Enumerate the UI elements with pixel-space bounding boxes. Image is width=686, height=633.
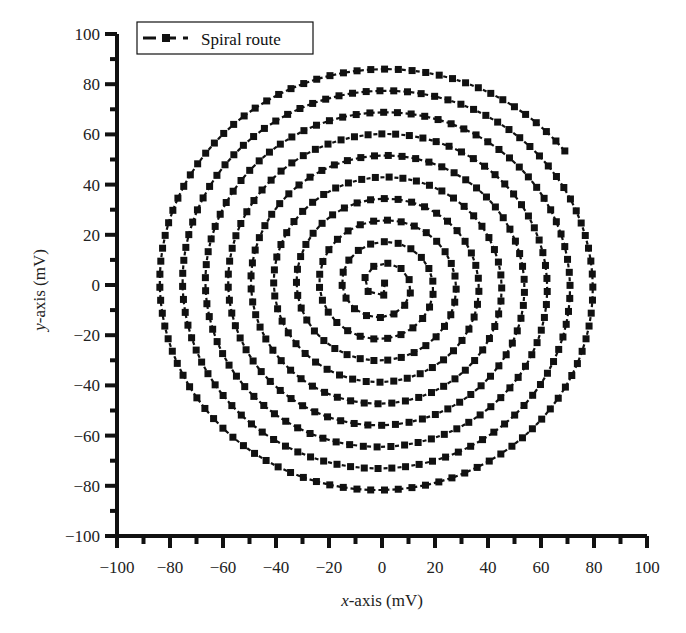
data-point-marker xyxy=(411,349,418,356)
data-point-marker xyxy=(525,212,532,219)
data-point-marker xyxy=(467,391,474,398)
data-point-marker xyxy=(477,411,484,418)
data-point-marker xyxy=(498,284,505,291)
data-point-marker xyxy=(351,420,358,427)
data-point-marker xyxy=(332,184,339,191)
data-point-marker xyxy=(521,276,528,283)
data-point-marker xyxy=(531,224,538,231)
data-point-marker xyxy=(472,262,479,269)
data-point-marker xyxy=(422,342,429,349)
data-point-marker xyxy=(194,160,201,167)
data-point-marker xyxy=(381,487,388,494)
data-point-marker xyxy=(345,257,352,264)
data-point-marker xyxy=(450,195,457,202)
data-point-marker xyxy=(212,223,219,230)
data-point-marker xyxy=(363,312,370,319)
data-point-marker xyxy=(438,187,445,194)
data-point-marker xyxy=(189,219,196,226)
data-point-marker xyxy=(516,250,523,257)
data-point-marker xyxy=(506,384,513,391)
data-point-marker xyxy=(433,210,440,217)
data-point-marker xyxy=(203,300,210,307)
data-point-marker xyxy=(478,382,485,389)
data-point-marker xyxy=(256,157,263,164)
data-point-marker xyxy=(312,359,319,366)
data-point-marker xyxy=(467,443,474,450)
data-point-marker xyxy=(165,335,172,342)
data-point-marker xyxy=(406,276,413,283)
data-point-marker xyxy=(300,152,307,159)
data-point-marker xyxy=(398,354,405,361)
data-point-marker xyxy=(266,149,273,156)
data-point-marker xyxy=(319,220,326,227)
data-point-marker xyxy=(276,200,283,207)
data-point-marker xyxy=(258,368,265,375)
spiral-series xyxy=(156,66,596,494)
data-point-marker xyxy=(461,203,468,210)
data-point-marker xyxy=(380,292,387,299)
data-point-marker xyxy=(284,111,291,118)
data-point-marker xyxy=(360,443,367,450)
data-point-marker xyxy=(230,121,237,128)
data-point-marker xyxy=(252,247,259,254)
data-point-marker xyxy=(288,133,295,140)
data-point-marker xyxy=(313,122,320,129)
data-point-marker xyxy=(583,335,590,342)
data-point-marker xyxy=(159,245,166,252)
data-point-marker xyxy=(213,172,220,179)
data-point-marker xyxy=(435,116,442,123)
data-point-marker xyxy=(298,305,305,312)
data-point-marker xyxy=(544,288,551,295)
data-point-marker xyxy=(451,375,458,382)
data-point-marker xyxy=(415,394,422,401)
data-point-marker xyxy=(285,190,292,197)
data-point-marker xyxy=(411,223,418,230)
data-point-marker xyxy=(587,258,594,265)
data-point-marker xyxy=(441,323,448,330)
data-point-marker xyxy=(528,351,535,358)
data-point-marker xyxy=(324,366,331,373)
data-point-marker xyxy=(157,258,164,265)
data-point-marker xyxy=(520,302,527,309)
data-point-marker xyxy=(290,218,297,225)
data-point-marker xyxy=(288,159,295,166)
data-point-marker xyxy=(320,337,327,344)
data-point-marker xyxy=(388,465,395,472)
data-point-marker xyxy=(226,362,233,369)
data-point-marker xyxy=(309,199,316,206)
data-point-marker xyxy=(471,357,478,364)
data-point-marker xyxy=(349,376,356,383)
data-point-marker xyxy=(419,415,426,422)
data-point-marker xyxy=(240,142,247,149)
data-point-marker xyxy=(419,135,426,142)
data-point-marker xyxy=(533,184,540,191)
x-tick-label: 80 xyxy=(586,558,603,577)
data-point-marker xyxy=(210,415,217,422)
data-point-marker xyxy=(367,196,374,203)
data-point-marker xyxy=(479,346,486,353)
data-point-marker xyxy=(278,168,285,175)
data-point-marker xyxy=(589,297,596,304)
data-point-marker xyxy=(357,154,364,161)
data-point-marker xyxy=(354,199,361,206)
data-point-marker xyxy=(397,331,404,338)
data-point-marker xyxy=(169,207,176,214)
data-point-marker xyxy=(324,413,331,420)
data-point-marker xyxy=(237,334,244,341)
data-point-marker xyxy=(486,335,493,342)
data-point-marker xyxy=(462,79,469,86)
data-point-marker xyxy=(521,402,528,409)
data-point-marker xyxy=(390,310,397,317)
data-point-marker xyxy=(421,113,428,120)
data-point-marker xyxy=(448,260,455,267)
data-point-marker xyxy=(252,105,259,112)
data-point-marker xyxy=(287,469,294,476)
data-point-marker xyxy=(511,412,518,419)
data-point-marker xyxy=(529,392,536,399)
data-point-marker xyxy=(268,177,275,184)
data-point-marker xyxy=(300,474,307,481)
spiral-chart: −100−80−60−40−20020406080100−100−80−60−4… xyxy=(0,0,686,633)
data-point-marker xyxy=(288,395,295,402)
data-point-marker xyxy=(381,66,388,73)
y-tick-label: −20 xyxy=(73,326,100,345)
